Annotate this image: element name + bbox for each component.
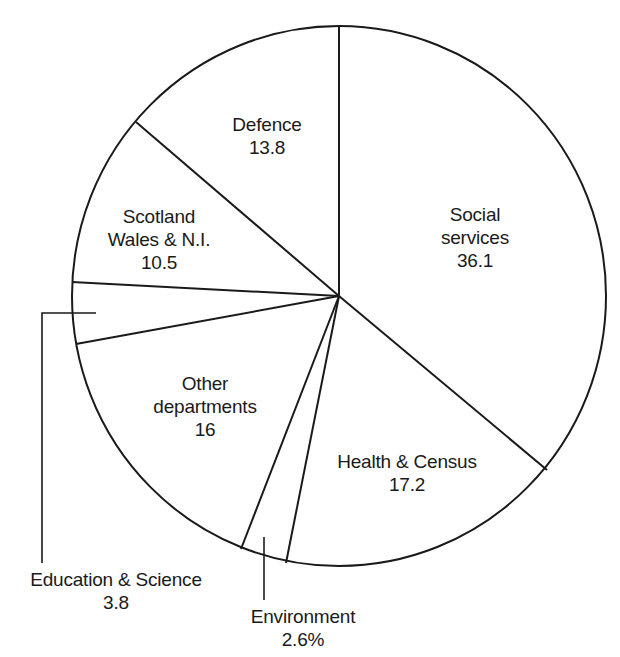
label-environment: Environment 2.6%	[251, 605, 355, 651]
divider-education-scotland	[72, 282, 339, 296]
education-leader-line	[42, 313, 96, 563]
label-social-services: Social services 36.1	[441, 203, 509, 272]
label-health-census: Health & Census 17.2	[337, 450, 477, 496]
label-defence: Defence 13.8	[232, 113, 301, 159]
label-scotland: Scotland Wales & N.I. 10.5	[108, 205, 210, 274]
divider-social-health	[339, 296, 547, 470]
divider-health-environment	[286, 296, 339, 563]
label-education-science: Education & Science 3.8	[30, 568, 202, 614]
label-other-departments: Other departments 16	[153, 372, 256, 441]
divider-other-education	[76, 296, 339, 344]
pie-chart	[0, 0, 620, 657]
